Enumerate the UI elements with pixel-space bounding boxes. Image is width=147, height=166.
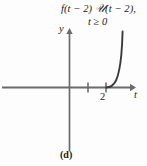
- formula-label-line1: f(t − 2) 𝒰(t − 2),: [61, 3, 136, 15]
- figure-panel: f(t − 2) 𝒰(t − 2), t ≥ 0 y t 2 (d): [0, 0, 147, 166]
- t-axis-tick-label-2: 2: [100, 92, 105, 103]
- formula-part-arg: (t − 2),: [105, 3, 136, 14]
- formula-part-f: f(t − 2): [61, 3, 95, 14]
- graph-canvas: [0, 0, 147, 166]
- formula-label-line2: t ≥ 0: [88, 17, 107, 28]
- y-axis-arrowhead: [66, 28, 72, 34]
- panel-caption: (d): [60, 150, 72, 160]
- exponential-curve: [106, 32, 122, 88]
- t-axis-label: t: [134, 90, 137, 101]
- y-axis-label: y: [59, 24, 64, 35]
- unit-step-symbol: 𝒰: [95, 1, 105, 15]
